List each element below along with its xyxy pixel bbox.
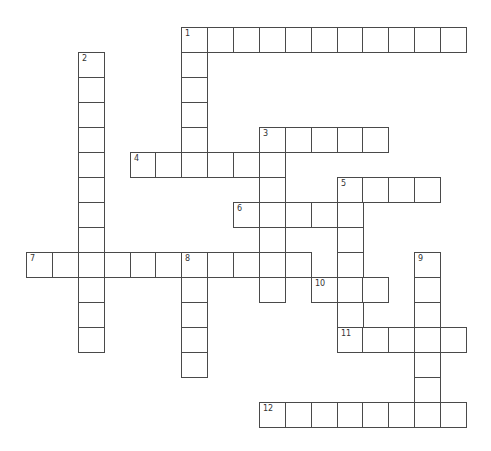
clue-number: 3: [263, 129, 268, 139]
crossword-cell[interactable]: [78, 277, 105, 303]
crossword-cell[interactable]: 7: [26, 252, 53, 278]
crossword-cell[interactable]: 2: [78, 52, 105, 78]
crossword-cell[interactable]: [78, 302, 105, 328]
clue-number: 8: [185, 254, 190, 264]
crossword-cell[interactable]: [104, 252, 131, 278]
crossword-cell[interactable]: [78, 202, 105, 228]
crossword-cell[interactable]: [259, 27, 286, 53]
crossword-cell[interactable]: [78, 77, 105, 103]
crossword-cell[interactable]: [311, 127, 338, 153]
clue-number: 7: [30, 254, 35, 264]
crossword-grid: 123451167891012: [0, 0, 491, 451]
crossword-cell[interactable]: [259, 252, 286, 278]
crossword-cell[interactable]: [233, 27, 260, 53]
crossword-cell[interactable]: [337, 127, 364, 153]
crossword-cell[interactable]: 6: [233, 202, 260, 228]
crossword-cell[interactable]: [440, 27, 467, 53]
crossword-cell[interactable]: [414, 352, 441, 378]
clue-number: 10: [315, 279, 325, 289]
crossword-cell[interactable]: [388, 27, 415, 53]
crossword-cell[interactable]: 5: [337, 177, 364, 203]
clue-number: 5: [341, 179, 346, 189]
crossword-cell[interactable]: [362, 327, 389, 353]
crossword-cell[interactable]: 9: [414, 252, 441, 278]
crossword-cell[interactable]: [362, 127, 389, 153]
crossword-cell[interactable]: [440, 327, 467, 353]
crossword-cell[interactable]: [388, 327, 415, 353]
crossword-cell[interactable]: [388, 402, 415, 428]
crossword-cell[interactable]: [259, 202, 286, 228]
crossword-cell[interactable]: [181, 52, 208, 78]
clue-number: 9: [418, 254, 423, 264]
crossword-cell[interactable]: [414, 177, 441, 203]
crossword-cell[interactable]: [285, 402, 312, 428]
crossword-cell[interactable]: [414, 402, 441, 428]
crossword-cell[interactable]: [285, 202, 312, 228]
crossword-cell[interactable]: [259, 277, 286, 303]
crossword-cell[interactable]: [259, 177, 286, 203]
clue-number: 12: [263, 404, 273, 414]
crossword-cell[interactable]: [362, 27, 389, 53]
crossword-cell[interactable]: [181, 277, 208, 303]
crossword-cell[interactable]: [362, 177, 389, 203]
crossword-cell[interactable]: [233, 252, 260, 278]
crossword-cell[interactable]: 3: [259, 127, 286, 153]
crossword-cell[interactable]: [311, 402, 338, 428]
crossword-cell[interactable]: [78, 152, 105, 178]
crossword-cell[interactable]: [181, 152, 208, 178]
crossword-cell[interactable]: [181, 352, 208, 378]
clue-number: 2: [82, 54, 87, 64]
crossword-cell[interactable]: [155, 252, 182, 278]
crossword-cell[interactable]: [52, 252, 79, 278]
crossword-cell[interactable]: 11: [337, 327, 364, 353]
crossword-cell[interactable]: [337, 202, 364, 228]
crossword-cell[interactable]: [181, 127, 208, 153]
crossword-cell[interactable]: [414, 377, 441, 403]
crossword-cell[interactable]: [337, 227, 364, 253]
crossword-cell[interactable]: [78, 177, 105, 203]
crossword-cell[interactable]: [362, 277, 389, 303]
crossword-cell[interactable]: [78, 327, 105, 353]
clue-number: 4: [134, 154, 139, 164]
crossword-cell[interactable]: [259, 152, 286, 178]
crossword-cell[interactable]: [155, 152, 182, 178]
crossword-cell[interactable]: [362, 402, 389, 428]
crossword-cell[interactable]: [337, 402, 364, 428]
crossword-cell[interactable]: 4: [130, 152, 157, 178]
crossword-cell[interactable]: [388, 177, 415, 203]
crossword-cell[interactable]: [78, 102, 105, 128]
crossword-cell[interactable]: [78, 252, 105, 278]
crossword-cell[interactable]: [181, 77, 208, 103]
crossword-cell[interactable]: [440, 402, 467, 428]
crossword-cell[interactable]: [78, 127, 105, 153]
clue-number: 11: [341, 329, 351, 339]
crossword-cell[interactable]: [207, 252, 234, 278]
crossword-cell[interactable]: [207, 152, 234, 178]
crossword-cell[interactable]: [259, 227, 286, 253]
crossword-cell[interactable]: [337, 302, 364, 328]
crossword-cell[interactable]: [337, 252, 364, 278]
crossword-cell[interactable]: [414, 277, 441, 303]
crossword-cell[interactable]: [285, 252, 312, 278]
crossword-cell[interactable]: 10: [311, 277, 338, 303]
crossword-cell[interactable]: [337, 27, 364, 53]
crossword-cell[interactable]: [181, 102, 208, 128]
crossword-cell[interactable]: [414, 327, 441, 353]
crossword-cell[interactable]: [181, 327, 208, 353]
crossword-cell[interactable]: [130, 252, 157, 278]
crossword-cell[interactable]: [311, 202, 338, 228]
crossword-cell[interactable]: [78, 227, 105, 253]
crossword-cell[interactable]: [414, 302, 441, 328]
clue-number: 6: [237, 204, 242, 214]
crossword-cell[interactable]: [207, 27, 234, 53]
crossword-cell[interactable]: [285, 27, 312, 53]
crossword-cell[interactable]: 1: [181, 27, 208, 53]
crossword-cell[interactable]: [311, 27, 338, 53]
crossword-cell[interactable]: [414, 27, 441, 53]
crossword-cell[interactable]: [181, 302, 208, 328]
crossword-cell[interactable]: 12: [259, 402, 286, 428]
crossword-cell[interactable]: [337, 277, 364, 303]
crossword-cell[interactable]: [233, 152, 260, 178]
crossword-cell[interactable]: 8: [181, 252, 208, 278]
crossword-cell[interactable]: [285, 127, 312, 153]
